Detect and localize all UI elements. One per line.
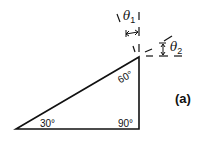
theta2-arrow — [159, 43, 166, 55]
theta2-label: θ2 — [170, 40, 182, 56]
angle-90-label: 90° — [118, 118, 133, 129]
diagram-canvas: 30° 90° 60° θ1 θ2 — [0, 0, 209, 155]
angle-60-label: 60° — [116, 68, 135, 85]
angle-30-label: 30° — [40, 118, 55, 129]
theta1-arrow — [126, 30, 138, 37]
theta1-label: θ1 — [123, 9, 135, 25]
panel-label: (a) — [175, 91, 191, 106]
tilted-dashed-line-theta2 — [145, 36, 172, 52]
